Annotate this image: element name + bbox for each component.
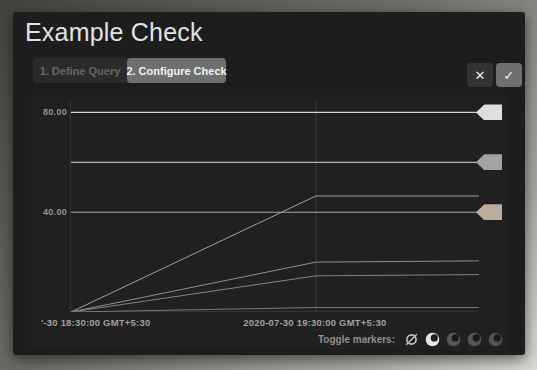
- chart-line-series-2: [71, 261, 479, 312]
- x-tick-label: '-30 18:30:00 GMT+5:30: [41, 317, 150, 328]
- threshold-handle-80[interactable]: [476, 104, 502, 120]
- x-tick-label: 2020-07-30 19:30:00 GMT+5:30: [243, 317, 386, 328]
- toggle-all-markers-eye-off-icon[interactable]: [404, 332, 419, 347]
- chart-line-series-4: [71, 308, 479, 312]
- checkmark-icon: ✓: [504, 68, 515, 83]
- threshold-handle-60[interactable]: [476, 154, 502, 170]
- cancel-button[interactable]: ✕: [467, 63, 493, 87]
- y-tick-label: 40.00: [27, 207, 67, 217]
- tab-define-query[interactable]: 1. Define Query: [33, 58, 127, 83]
- threshold-chart-panel: 80.0040.00'-30 18:30:00 GMT+5:302020-07-…: [25, 95, 508, 350]
- toggle-markers-label: Toggle markers:: [318, 334, 395, 345]
- y-tick-label: 80.00: [27, 107, 67, 117]
- threshold-handle-40[interactable]: [476, 204, 502, 220]
- step-tabbar: 1. Define Query 2. Configure Check: [33, 58, 226, 83]
- marker-toggle-eye-icon-3[interactable]: [467, 332, 482, 347]
- marker-toggle-eye-icon-1[interactable]: [425, 332, 440, 347]
- chart-svg: [71, 100, 479, 312]
- chart-line-series-1: [71, 196, 479, 312]
- check-editor-modal: Example Check 1. Define Query 2. Configu…: [13, 12, 525, 355]
- page-title: Example Check: [25, 18, 203, 47]
- marker-toggle-eye-icon-4[interactable]: [488, 332, 503, 347]
- marker-toggle-eye-icon-2[interactable]: [446, 332, 461, 347]
- chart-plot-area: [70, 100, 478, 312]
- save-button[interactable]: ✓: [496, 63, 522, 87]
- chart-line-series-3: [71, 275, 479, 312]
- close-icon: ✕: [475, 68, 486, 83]
- tab-configure-check[interactable]: 2. Configure Check: [127, 58, 226, 83]
- toggle-markers-row: Toggle markers:: [318, 332, 503, 347]
